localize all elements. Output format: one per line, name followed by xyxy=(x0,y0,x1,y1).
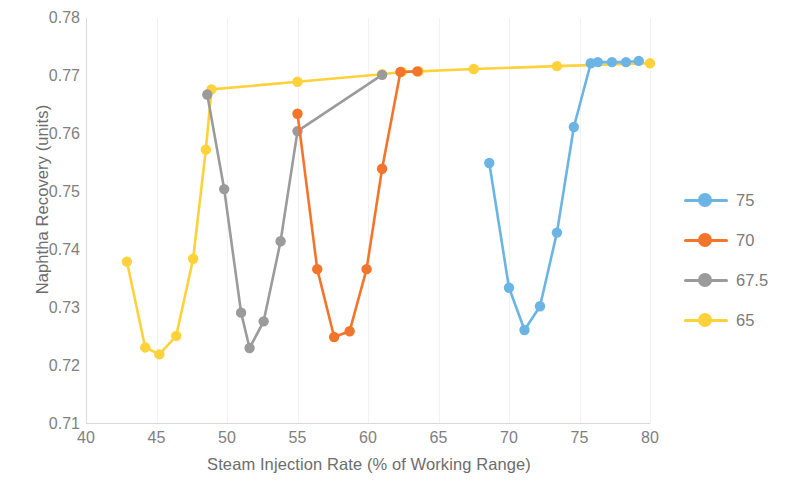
data-point xyxy=(201,144,211,154)
x-tick-label: 55 xyxy=(274,430,322,446)
legend-item-75[interactable]: 75 xyxy=(684,180,788,220)
legend-item-label: 70 xyxy=(728,231,754,250)
data-point xyxy=(219,184,229,194)
data-point xyxy=(202,89,212,99)
data-point xyxy=(395,67,405,77)
series-line xyxy=(298,71,418,337)
data-point xyxy=(504,283,514,293)
y-tick-label: 0.74 xyxy=(28,242,80,258)
data-point xyxy=(188,254,198,264)
data-point xyxy=(140,342,150,352)
data-point xyxy=(621,57,631,67)
y-tick-label: 0.78 xyxy=(28,10,80,26)
data-point xyxy=(244,343,254,353)
data-point xyxy=(292,77,302,87)
data-point xyxy=(552,227,562,237)
legend-marker-icon xyxy=(684,312,728,328)
x-tick-label: 45 xyxy=(133,430,181,446)
legend-item-label: 65 xyxy=(728,311,754,330)
data-point xyxy=(519,325,529,335)
gridline-vertical xyxy=(650,18,651,424)
data-point xyxy=(552,61,562,71)
x-tick-label: 50 xyxy=(203,430,251,446)
x-tick-label: 65 xyxy=(415,430,463,446)
data-point xyxy=(484,158,494,168)
data-point xyxy=(361,264,371,274)
x-tick-label: 40 xyxy=(62,430,110,446)
data-point xyxy=(258,316,268,326)
series-line xyxy=(127,63,650,354)
data-point xyxy=(607,57,617,67)
data-point xyxy=(236,307,246,317)
legend-item-label: 67.5 xyxy=(728,271,768,290)
data-point xyxy=(154,349,164,359)
x-tick-label: 70 xyxy=(485,430,533,446)
data-point xyxy=(645,58,655,68)
legend-marker-icon xyxy=(684,192,728,208)
data-point xyxy=(292,109,302,119)
data-point xyxy=(329,332,339,342)
legend-marker-icon xyxy=(684,232,728,248)
data-point xyxy=(377,70,387,80)
series-layer xyxy=(86,18,650,424)
legend-item-67.5[interactable]: 67.5 xyxy=(684,260,788,300)
y-tick-label: 0.72 xyxy=(28,358,80,374)
y-tick-label: 0.73 xyxy=(28,300,80,316)
plot-area xyxy=(86,18,650,424)
data-point xyxy=(569,122,579,132)
data-point xyxy=(171,331,181,341)
series-75 xyxy=(484,56,644,336)
data-point xyxy=(312,264,322,274)
x-tick-label: 60 xyxy=(344,430,392,446)
data-point xyxy=(535,301,545,311)
x-axis-title: Steam Injection Rate (% of Working Range… xyxy=(86,455,652,474)
data-point xyxy=(122,256,132,266)
legend: 757067.565 xyxy=(684,180,788,340)
y-tick-label: 0.77 xyxy=(28,68,80,84)
data-point xyxy=(634,56,644,66)
y-tick-label: 0.76 xyxy=(28,126,80,142)
legend-item-65[interactable]: 65 xyxy=(684,300,788,340)
data-point xyxy=(344,326,354,336)
y-tick-label: 0.75 xyxy=(28,184,80,200)
line-chart: Naphtha Recovery (units) Steam Injection… xyxy=(0,0,792,484)
data-point xyxy=(275,236,285,246)
legend-marker-icon xyxy=(684,272,728,288)
series-70 xyxy=(292,66,422,342)
data-point xyxy=(412,66,422,76)
legend-item-70[interactable]: 70 xyxy=(684,220,788,260)
data-point xyxy=(469,64,479,74)
data-point xyxy=(377,164,387,174)
legend-item-label: 75 xyxy=(728,191,754,210)
x-tick-label: 75 xyxy=(556,430,604,446)
x-tick-label: 80 xyxy=(626,430,674,446)
series-65 xyxy=(122,58,656,360)
data-point xyxy=(593,57,603,67)
